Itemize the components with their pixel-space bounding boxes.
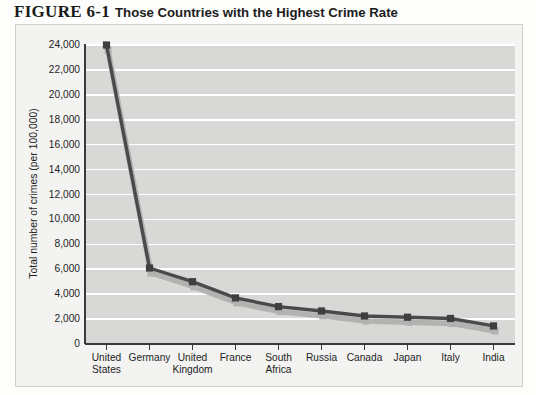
x-tick-label-line: Kingdom <box>164 364 221 376</box>
x-tick-label-line: States <box>78 364 135 376</box>
figure-container: FIGURE 6-1Those Countries with the Highe… <box>0 0 536 395</box>
x-axis-tick-labels: UnitedStatesGermanyUnitedKingdomFranceSo… <box>0 0 536 395</box>
x-tick-label: India <box>465 352 522 364</box>
x-tick-label-line: Africa <box>250 364 307 376</box>
x-tick-label-line: India <box>465 352 522 364</box>
